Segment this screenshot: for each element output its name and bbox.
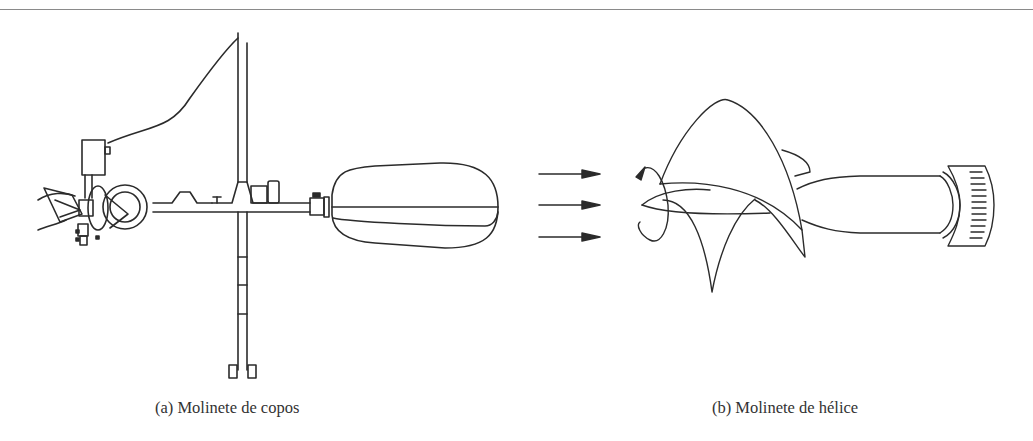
flow-arrows bbox=[539, 170, 600, 241]
propeller-blade bbox=[660, 183, 805, 257]
propeller-current-meter-drawing bbox=[636, 100, 994, 292]
flow-arrow-icon bbox=[539, 170, 600, 178]
contact-box bbox=[82, 140, 105, 175]
float-body bbox=[332, 163, 498, 248]
flow-arrow-icon bbox=[539, 201, 600, 209]
figure-canvas bbox=[0, 0, 1033, 441]
wading-rod bbox=[229, 33, 256, 378]
horizontal-arm bbox=[153, 181, 310, 212]
end-cap bbox=[940, 166, 994, 246]
caption-propeller-current-meter: (b) Molinete de hélice bbox=[712, 398, 858, 418]
flow-arrow-icon bbox=[539, 233, 600, 241]
cup-current-meter-drawing bbox=[38, 33, 498, 378]
cup-wheel bbox=[38, 186, 128, 245]
caption-cup-current-meter: (a) Molinete de copos bbox=[155, 398, 299, 418]
propeller-blade bbox=[663, 199, 755, 292]
meter-body bbox=[797, 176, 940, 189]
propeller-blade bbox=[660, 100, 802, 230]
signal-cable bbox=[108, 38, 238, 143]
